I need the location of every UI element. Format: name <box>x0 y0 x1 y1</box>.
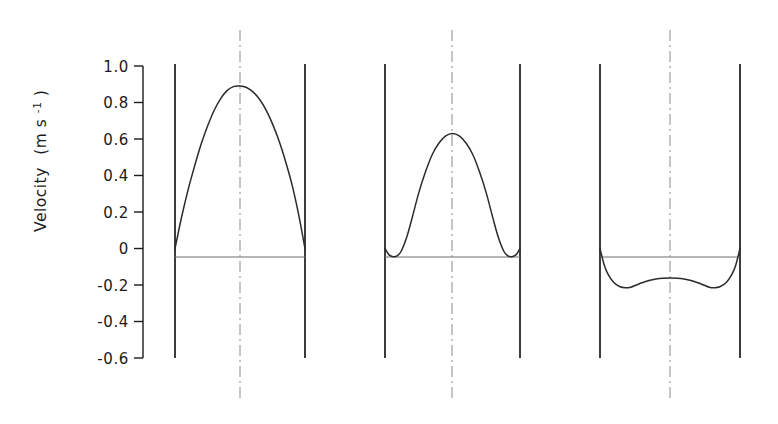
y-axis-title-units-exponent: -1 <box>31 102 43 113</box>
y-axis-title-units-open: (m s <box>32 119 50 155</box>
velocity-profile-figure: 1.00.80.60.40.20-0.2-0.4-0.6 Velocity (m… <box>0 0 778 424</box>
y-axis-title-units-close: ) <box>32 90 50 97</box>
y-axis-tick-label: 0.8 <box>103 94 129 112</box>
y-axis-title-main: Velocity <box>32 167 50 232</box>
y-axis-tick-label: -0.2 <box>97 277 129 295</box>
plot-canvas: 1.00.80.60.40.20-0.2-0.4-0.6 Velocity (m… <box>0 0 778 424</box>
panel-2 <box>385 30 520 402</box>
y-axis-tick-label: 0.6 <box>103 131 129 149</box>
y-axis-tick-labels: 1.00.80.60.40.20-0.2-0.4-0.6 <box>97 58 129 368</box>
y-axis-tick-label: 0 <box>119 240 129 258</box>
y-axis-title-text: Velocity (m s -1 ) <box>27 90 50 232</box>
y-axis: 1.00.80.60.40.20-0.2-0.4-0.6 <box>97 58 143 368</box>
y-axis-title: Velocity (m s -1 ) <box>27 90 50 232</box>
y-axis-tick-label: 0.4 <box>103 167 129 185</box>
y-axis-tick-marks <box>134 66 143 358</box>
y-axis-tick-label: 0.2 <box>103 204 129 222</box>
y-axis-tick-label: -0.6 <box>97 350 129 368</box>
velocity-profile-curve <box>385 134 520 257</box>
panel-3 <box>600 30 740 402</box>
panels-group <box>175 30 740 402</box>
y-axis-tick-label: 1.0 <box>103 58 129 76</box>
panel-1 <box>175 30 305 402</box>
y-axis-tick-label: -0.4 <box>97 313 129 331</box>
